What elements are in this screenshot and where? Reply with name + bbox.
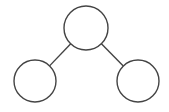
edge-root-to-left-child: [50, 44, 71, 66]
node-left-child: [14, 60, 56, 102]
node-right-child: [117, 60, 159, 102]
tree-diagram: [0, 0, 169, 112]
node-root: [64, 6, 108, 50]
nodes-group: [14, 6, 159, 102]
edge-root-to-right-child: [101, 44, 123, 66]
